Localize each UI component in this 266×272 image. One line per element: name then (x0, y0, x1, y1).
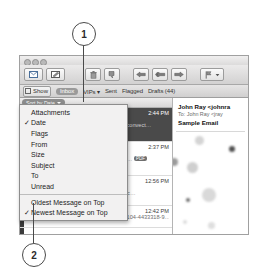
menu-item-label: From (31, 141, 47, 148)
mailbox-tab-inbox[interactable]: Inbox (56, 88, 78, 95)
menu-item-label: Newest Message on Top (31, 209, 108, 216)
menu-item-label: Flags (31, 130, 48, 137)
mailbox-tab-flagged[interactable]: Flagged (122, 88, 143, 94)
menu-item-size[interactable]: Size (20, 149, 127, 160)
reply-all-button[interactable] (152, 68, 168, 81)
callout-badge-1: 1 (72, 22, 96, 46)
menu-item-to[interactable]: To (20, 171, 127, 182)
menu-item-subject[interactable]: Subject (20, 160, 127, 171)
message-time: 12:56 PM (142, 178, 169, 184)
decorative-dot (183, 220, 187, 224)
callout-badge-2: 2 (22, 243, 46, 267)
menu-item-label: Size (31, 151, 45, 158)
decorative-dot (187, 162, 198, 173)
window-toolbar (20, 65, 248, 85)
menu-item-label: To (31, 172, 38, 179)
flag-icon (205, 71, 212, 79)
junk-thumb-down-icon (108, 71, 116, 79)
callout-2-leader-line (33, 203, 34, 243)
forward-button[interactable] (171, 68, 187, 81)
callout-1-leader-line (83, 44, 84, 102)
message-time: 2:44 PM (145, 110, 169, 116)
sidebar-icon (25, 88, 31, 94)
decorative-dot (208, 222, 215, 229)
menu-item-newest-message-on-top[interactable]: ✓ Newest Message on Top (20, 207, 127, 218)
menu-separator (20, 194, 127, 195)
message-to-line: To: John Ray <jray (178, 111, 244, 117)
show-mailboxes-button[interactable]: Show (23, 86, 51, 97)
compose-pencil-icon (51, 71, 60, 78)
decorative-dot (229, 146, 235, 152)
menu-item-flags[interactable]: Flags (20, 128, 127, 139)
menu-item-unread[interactable]: Unread (20, 181, 127, 192)
message-subject-line: Sample Email (178, 119, 244, 126)
decorative-dot (202, 188, 216, 202)
sort-by-dropdown-menu: Attachments ✓ Date Flags From Size Subje… (19, 104, 128, 221)
menu-item-oldest-message-on-top[interactable]: Oldest Message on Top (20, 197, 127, 208)
message-time: 2:37 PM (145, 144, 169, 150)
menu-item-label: Oldest Message on Top (31, 199, 104, 206)
mailbox-tab-drafts[interactable]: Drafts (44) (148, 88, 175, 94)
decorative-dot (195, 136, 204, 145)
reply-arrow-icon (136, 71, 146, 78)
menu-item-attachments[interactable]: Attachments (20, 107, 127, 118)
checkmark-icon: ✓ (22, 119, 31, 127)
forward-arrow-icon (174, 71, 184, 78)
junk-mail-button[interactable] (104, 68, 120, 81)
flag-message-button[interactable] (200, 68, 224, 81)
message-header-divider (176, 131, 245, 132)
reply-button[interactable] (133, 68, 149, 81)
menu-item-from[interactable]: From (20, 139, 127, 150)
window-titlebar (20, 56, 248, 65)
compose-message-button[interactable] (46, 68, 65, 81)
mailbox-tab-vips[interactable]: VIPs ▾ (83, 88, 100, 95)
mailbox-favorites-bar: Show Inbox VIPs ▾ Sent Flagged Drafts (4… (20, 85, 248, 98)
chevron-down-icon (215, 73, 220, 77)
mailbox-tab-sent[interactable]: Sent (105, 88, 117, 94)
message-header: John Ray <johnra To: John Ray <jray Samp… (173, 98, 248, 128)
menu-item-label: Date (31, 119, 46, 126)
menu-item-label: Unread (31, 183, 54, 190)
menu-item-label: Attachments (31, 109, 70, 116)
show-label: Show (33, 88, 48, 94)
decorative-dot (173, 158, 178, 166)
envelope-icon (29, 71, 38, 78)
message-from-line: John Ray <johnra (178, 103, 244, 110)
message-reading-pane: John Ray <johnra To: John Ray <jray Samp… (173, 98, 248, 235)
delete-message-button[interactable] (85, 68, 101, 81)
reply-all-arrow-icon (155, 71, 166, 78)
menu-item-date[interactable]: ✓ Date (20, 118, 127, 129)
checkmark-icon: ✓ (22, 209, 31, 217)
attachment-badge: PDF (134, 156, 147, 161)
menu-item-label: Subject (31, 162, 54, 169)
decorative-dot (186, 198, 190, 202)
trash-icon (90, 71, 97, 79)
get-mail-button[interactable] (24, 68, 43, 81)
